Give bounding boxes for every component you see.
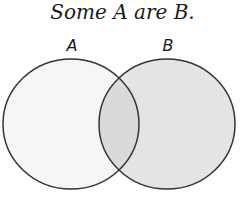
venn-diagram	[0, 0, 245, 204]
